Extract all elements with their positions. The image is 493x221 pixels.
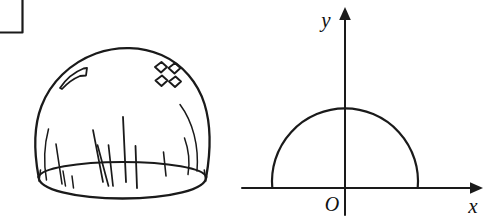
- origin-label: O: [325, 193, 339, 215]
- x-axis-arrowhead: [470, 182, 483, 194]
- hat-brim-tick-left: [39, 170, 41, 181]
- crop-corner-bracket: [0, 0, 23, 33]
- hat-shade-line-right-inner: [185, 138, 189, 175]
- cartesian-axes: [242, 7, 483, 215]
- y-axis-label: y: [319, 8, 331, 32]
- four-diamond-emblem: [155, 62, 181, 87]
- hat-dome-outline: [35, 48, 209, 177]
- hat-crease-lines: [56, 117, 166, 188]
- hat-brim-outer: [39, 177, 207, 199]
- y-axis-arrowhead: [339, 7, 351, 20]
- hook-shaped-mark: [60, 68, 87, 89]
- figure-root: y x O: [0, 0, 493, 221]
- hat-brim-tick-right: [204, 170, 206, 181]
- x-axis-label: x: [467, 194, 478, 218]
- figure-canvas: y x O: [0, 0, 493, 221]
- hand-drawn-hat: [35, 48, 209, 198]
